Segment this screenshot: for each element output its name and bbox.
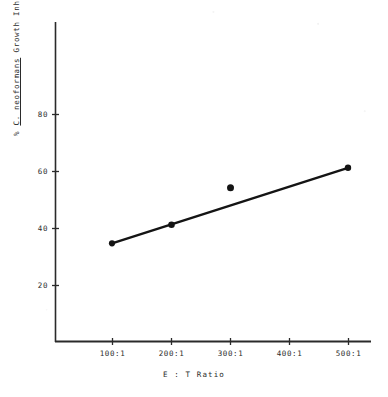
- chart-figure: 80 60 40 20 100:1 200:1 300:1 400:1 500:…: [0, 0, 388, 397]
- y-axis-title-species: C. neoformans: [12, 58, 21, 126]
- data-point-500-1: [345, 165, 351, 171]
- x-tick-label-200-1: 200:1: [146, 349, 197, 358]
- x-tick-label-100-1: 100:1: [87, 349, 138, 358]
- x-tick-label-400-1: 400:1: [264, 349, 315, 358]
- data-point-300-1: [227, 184, 234, 191]
- y-axis-title-suffix: Growth Inhibition: [12, 0, 21, 58]
- data-point-100-1: [109, 240, 115, 246]
- plot-canvas: [0, 0, 388, 397]
- y-tick-label-20: 20: [26, 281, 48, 290]
- y-tick-label-60: 60: [26, 167, 48, 176]
- x-tick-label-500-1: 500:1: [323, 349, 374, 358]
- trend-line: [112, 168, 348, 244]
- y-axis-title-prefix: %: [12, 126, 21, 136]
- y-tick-label-80: 80: [26, 110, 48, 119]
- y-axis-title: % C. neoformans Growth Inhibition: [12, 0, 21, 136]
- x-tick-label-300-1: 300:1: [205, 349, 256, 358]
- y-tick-label-40: 40: [26, 224, 48, 233]
- data-point-200-1: [168, 222, 175, 229]
- x-axis-title: E : T Ratio: [0, 370, 388, 379]
